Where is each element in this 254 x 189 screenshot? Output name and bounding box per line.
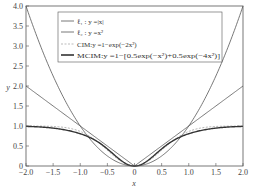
legend: ℓ₁ : y =|x| ℓ₂ : y =x² CIM:y =1−exp(−2x²… xyxy=(58,12,222,62)
y-tick-label: 4.0 xyxy=(13,2,23,11)
x-tick-label: 0 xyxy=(133,168,137,177)
legend-label-cim: CIM:y =1−exp(−2x²) xyxy=(77,41,137,49)
y-tick-label: 2.0 xyxy=(13,82,23,91)
y-tick-label: 3.0 xyxy=(13,42,23,51)
y-tick-label: 1.5 xyxy=(13,102,23,111)
x-tick-label: 2.0 xyxy=(238,168,248,177)
curve-l1 xyxy=(26,86,243,166)
x-tick-label: −1.0 xyxy=(73,168,88,177)
x-tick-label: −1.5 xyxy=(46,168,61,177)
y-tick-label: 0.5 xyxy=(13,142,23,151)
legend-label-l2: ℓ₂ : y =x² xyxy=(77,29,103,37)
y-tick-label: 1.0 xyxy=(13,122,23,131)
legend-label-l1: ℓ₁ : y =|x| xyxy=(77,18,104,26)
curve-mcim xyxy=(26,126,243,166)
x-tick-label: −0.5 xyxy=(100,168,115,177)
y-axis-label: y xyxy=(5,83,10,92)
y-tick-label: 3.5 xyxy=(13,22,23,31)
x-tick-label: 0.5 xyxy=(157,168,167,177)
chart: −2.0−1.5−1.0−0.500.51.01.52.0 00.51.01.5… xyxy=(0,0,254,189)
x-axis-label: x xyxy=(131,179,136,188)
legend-label-mcim: MCIM:y =1−[0.5exp(−x²)+0.5exp(−4x²)] xyxy=(77,52,220,60)
x-tick-label: 1.0 xyxy=(184,168,194,177)
y-tick-label: 0 xyxy=(19,162,23,171)
y-tick-label: 2.5 xyxy=(13,62,23,71)
curve-cim xyxy=(26,126,243,166)
x-tick-label: 1.5 xyxy=(211,168,221,177)
